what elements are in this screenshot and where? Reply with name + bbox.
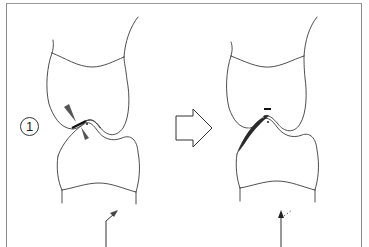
diagram-canvas: 1: [0, 0, 369, 247]
force-arrow-vertical: [278, 210, 292, 247]
contact-arrowhead-upper-icon: [64, 104, 76, 122]
minus-sign-icon: [264, 108, 271, 110]
panel-before: [47, 17, 140, 247]
contact-arrowhead-lower-icon: [81, 127, 89, 140]
occlusion-illustration: [0, 0, 369, 247]
lower-tooth-left: [57, 120, 139, 204]
contact-dot: [86, 123, 88, 125]
panel-after: [227, 17, 319, 247]
dotted-deflection-line: [284, 210, 292, 216]
shaded-reduction-area: [238, 115, 269, 152]
hollow-right-arrow-icon: [176, 109, 212, 147]
force-arrow-angled: [106, 210, 118, 247]
contact-dot: [267, 121, 269, 123]
upper-tooth-left: [47, 17, 138, 135]
lower-tooth-right: [236, 118, 318, 202]
upper-tooth-right: [227, 17, 317, 131]
